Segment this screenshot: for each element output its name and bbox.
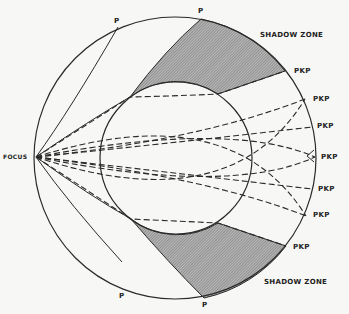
- shadow-zone-label-top: SHADOW ZONE: [260, 32, 323, 39]
- seismic-diagram: [0, 0, 349, 314]
- p-label-bottom-right: P: [202, 302, 207, 309]
- p-label-top-right: P: [198, 8, 203, 15]
- core-circle: [100, 82, 252, 234]
- pkp-label-5: PKP: [318, 186, 335, 193]
- pkp-label-1: PKP: [294, 68, 311, 75]
- shadow-zone-label-bottom: SHADOW ZONE: [264, 279, 327, 286]
- pkp-label-4: PKP: [321, 154, 338, 161]
- pkp-label-7: PKP: [293, 244, 310, 251]
- p-label-bottom-left: P: [119, 293, 124, 300]
- focus-label: FOCUS: [3, 154, 27, 160]
- pkp-label-6: PKP: [313, 212, 330, 219]
- p-label-top-left: P: [114, 18, 119, 25]
- pkp-label-2: PKP: [313, 96, 330, 103]
- pkp-label-3: PKP: [317, 123, 334, 130]
- pkp-wave-rays: [36, 71, 315, 246]
